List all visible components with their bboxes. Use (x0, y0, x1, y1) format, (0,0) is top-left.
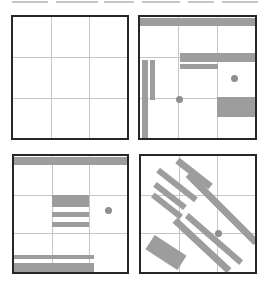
center-thick-bar (52, 195, 89, 207)
top-bar (140, 18, 255, 26)
middle-bar-short (180, 64, 218, 69)
panel-top-right-inner (140, 17, 255, 138)
vertical-gridline (89, 17, 90, 138)
vertical-gridline (51, 17, 52, 138)
cropped-text-artifact (142, 1, 180, 3)
left-vertical-bar (142, 60, 148, 138)
dot-right-cell (231, 75, 238, 82)
cropped-text-artifact (104, 1, 134, 3)
panel-bottom-left-inner (14, 156, 127, 272)
bottom-thin-bar (14, 255, 94, 259)
panel-top-right (138, 15, 257, 140)
panel-top-left (11, 15, 129, 140)
horizontal-gridline (14, 233, 127, 234)
horizontal-gridline (13, 57, 127, 58)
dot-grid-intersection (215, 230, 222, 237)
inner-vertical-bar (150, 60, 155, 100)
vertical-gridline (178, 17, 179, 138)
figure-canvas (0, 0, 264, 284)
rotated-block (145, 235, 186, 270)
panel-bottom-right-inner (141, 156, 255, 272)
cropped-text-artifact (56, 1, 98, 3)
bottom-right-block (217, 97, 255, 117)
vertical-gridline (217, 17, 218, 138)
middle-bar-long (180, 53, 255, 62)
dot-right-cell (105, 207, 112, 214)
dot-grid-intersection (176, 96, 183, 103)
cropped-text-artifact (222, 1, 258, 3)
panel-bottom-right (139, 154, 257, 274)
horizontal-gridline (141, 233, 255, 234)
bottom-thick-bar (14, 263, 94, 272)
cropped-text-artifact (12, 1, 48, 3)
panel-top-left-inner (13, 17, 127, 138)
cropped-text-artifact (188, 1, 214, 3)
center-thin-bar-1 (52, 212, 89, 217)
top-bar (14, 157, 127, 165)
panel-bottom-left (12, 154, 129, 274)
center-thin-bar-2 (52, 222, 89, 227)
horizontal-gridline (13, 98, 127, 99)
